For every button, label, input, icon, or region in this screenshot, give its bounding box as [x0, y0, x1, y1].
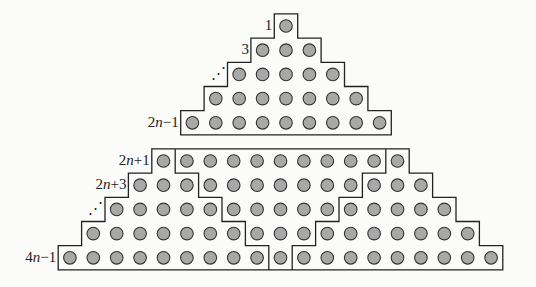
dot [415, 179, 428, 192]
dot [181, 203, 194, 216]
dot [303, 68, 316, 81]
dot [227, 155, 240, 168]
dot [134, 179, 147, 192]
dot [210, 117, 223, 130]
dot [298, 251, 311, 264]
dot [157, 227, 170, 240]
dot [321, 227, 334, 240]
dot [204, 227, 217, 240]
dot [280, 20, 293, 33]
dot [344, 227, 357, 240]
dot [204, 155, 217, 168]
dot [391, 227, 404, 240]
dot [134, 227, 147, 240]
label-2n+1: 2n+1 [119, 153, 150, 168]
dot [157, 179, 170, 192]
dot [280, 68, 293, 81]
dot [303, 44, 316, 57]
dot [233, 92, 246, 105]
dot [321, 179, 334, 192]
dot [181, 155, 194, 168]
dot [157, 203, 170, 216]
dot [415, 227, 428, 240]
dot [204, 179, 217, 192]
label-4n−1: 4n−1 [25, 250, 56, 265]
dot [280, 92, 293, 105]
dot [181, 227, 194, 240]
dot [274, 179, 287, 192]
dot [274, 155, 287, 168]
dot [64, 251, 77, 264]
dot [227, 203, 240, 216]
dot [391, 251, 404, 264]
dot [298, 155, 311, 168]
dot [368, 251, 381, 264]
dot [303, 92, 316, 105]
dot [344, 179, 357, 192]
dot [251, 227, 264, 240]
dot [134, 251, 147, 264]
dot [251, 179, 264, 192]
dot [110, 251, 123, 264]
dot [321, 203, 334, 216]
dot [227, 179, 240, 192]
dot [274, 227, 287, 240]
dot [303, 117, 316, 130]
dot [350, 117, 363, 130]
dot [327, 92, 340, 105]
dot [321, 155, 334, 168]
label-⋰: ⋰ [88, 201, 103, 216]
dot [204, 203, 217, 216]
label-3: 3 [241, 42, 249, 57]
dot [210, 92, 223, 105]
dot [350, 92, 363, 105]
dot [280, 117, 293, 130]
dot [233, 68, 246, 81]
dot [227, 251, 240, 264]
dot [344, 251, 357, 264]
dot [157, 251, 170, 264]
dot [204, 251, 217, 264]
dot [110, 203, 123, 216]
dot [157, 155, 170, 168]
dot [461, 251, 474, 264]
dot-array [64, 20, 498, 264]
dot [110, 227, 123, 240]
dot [233, 117, 246, 130]
dot [438, 203, 451, 216]
dot [368, 155, 381, 168]
dot [415, 251, 428, 264]
dot [251, 251, 264, 264]
dot [415, 203, 428, 216]
dot [251, 155, 264, 168]
dot [274, 203, 287, 216]
dot [344, 155, 357, 168]
dot [391, 203, 404, 216]
dot-diagram [0, 0, 536, 287]
dot [438, 227, 451, 240]
dot [368, 179, 381, 192]
dot [134, 203, 147, 216]
dot [298, 179, 311, 192]
dot [251, 203, 264, 216]
dot [485, 251, 498, 264]
dot [298, 227, 311, 240]
dot [227, 227, 240, 240]
dot [181, 251, 194, 264]
dot [256, 117, 269, 130]
dot [391, 179, 404, 192]
dot [181, 179, 194, 192]
dot [321, 251, 334, 264]
dot [461, 227, 474, 240]
dot [391, 155, 404, 168]
dot [87, 227, 100, 240]
dot [327, 117, 340, 130]
dot [87, 251, 100, 264]
dot [344, 203, 357, 216]
dot [186, 117, 199, 130]
dot [256, 44, 269, 57]
dot [256, 92, 269, 105]
dot [280, 44, 293, 57]
dot [438, 251, 451, 264]
dot [256, 68, 269, 81]
